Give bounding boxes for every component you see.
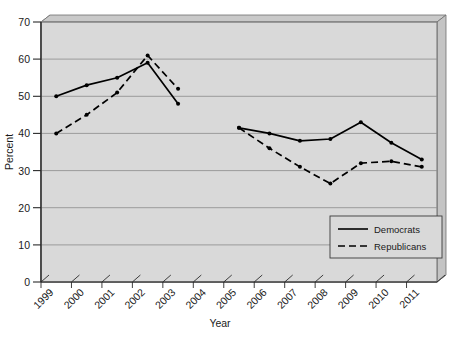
legend-box bbox=[330, 216, 442, 258]
y-tick-label-40: 40 bbox=[18, 127, 30, 139]
y-tick-label-50: 50 bbox=[18, 90, 30, 102]
y-tick-label-10: 10 bbox=[18, 239, 30, 251]
y-tick-label-60: 60 bbox=[18, 53, 30, 65]
x-tick-label-2011: 2011 bbox=[397, 286, 422, 311]
x-tick-label-2007: 2007 bbox=[274, 286, 299, 311]
x-tick-label-2004: 2004 bbox=[183, 286, 208, 311]
data-point bbox=[389, 159, 393, 163]
data-point bbox=[420, 157, 424, 161]
chart-container: 70 60 50 40 30 20 10 0 Percent 199920002… bbox=[0, 0, 461, 339]
data-point bbox=[328, 137, 332, 141]
data-point bbox=[54, 94, 58, 98]
x-tick-label-2008: 2008 bbox=[305, 286, 330, 311]
panel-top-depth bbox=[41, 15, 446, 22]
data-point bbox=[146, 53, 150, 57]
chart-legend: Democrats Republicans bbox=[330, 216, 442, 258]
x-tick-label-2010: 2010 bbox=[366, 286, 391, 311]
legend-label-republicans: Republicans bbox=[374, 241, 427, 252]
y-tick-label-70: 70 bbox=[18, 16, 30, 28]
data-point bbox=[359, 161, 363, 165]
data-point bbox=[359, 120, 363, 124]
data-point bbox=[420, 165, 424, 169]
y-tick-label-30: 30 bbox=[18, 165, 30, 177]
x-axis-tick-labels: 1999200020012002200320042005200620072008… bbox=[31, 286, 422, 311]
x-tick-label-2009: 2009 bbox=[335, 286, 360, 311]
x-tick-label-2000: 2000 bbox=[61, 286, 86, 311]
data-point bbox=[146, 61, 150, 65]
x-tick-label-2006: 2006 bbox=[244, 286, 269, 311]
y-tick-label-20: 20 bbox=[18, 202, 30, 214]
x-tick-label-1999: 1999 bbox=[31, 286, 56, 311]
x-tick-label-2001: 2001 bbox=[92, 286, 117, 311]
data-point bbox=[176, 102, 180, 106]
x-tick-label-2002: 2002 bbox=[122, 286, 147, 311]
x-tick-label-2003: 2003 bbox=[152, 286, 177, 311]
data-point bbox=[328, 182, 332, 186]
data-point bbox=[389, 141, 393, 145]
x-axis-title: Year bbox=[209, 317, 231, 329]
data-point bbox=[176, 87, 180, 91]
data-point bbox=[298, 165, 302, 169]
data-point bbox=[267, 146, 271, 150]
y-tick-label-0: 0 bbox=[24, 276, 30, 288]
y-axis-title: Percent bbox=[3, 134, 15, 170]
data-point bbox=[85, 113, 89, 117]
y-axis-ticks bbox=[33, 22, 41, 282]
line-chart: 70 60 50 40 30 20 10 0 Percent 199920002… bbox=[0, 0, 461, 339]
data-point bbox=[115, 76, 119, 80]
data-point bbox=[298, 139, 302, 143]
x-tick-label-2005: 2005 bbox=[213, 286, 238, 311]
data-point bbox=[237, 126, 241, 130]
data-point bbox=[115, 91, 119, 95]
data-point bbox=[85, 83, 89, 87]
data-point bbox=[54, 131, 58, 135]
legend-label-democrats: Democrats bbox=[374, 224, 420, 235]
data-point bbox=[267, 131, 271, 135]
